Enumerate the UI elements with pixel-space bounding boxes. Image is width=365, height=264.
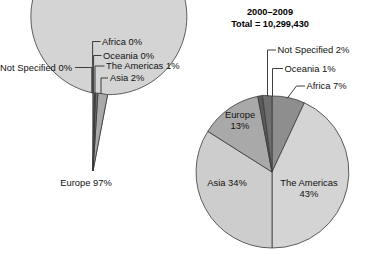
right-chart-total: Total = 10,299,430 — [231, 19, 309, 29]
chart-svg: 1890–1899 Total = 3,689,609 — [0, 0, 365, 264]
right-callout-africa: Africa 7% — [307, 80, 347, 91]
right-label-americas-pct: 43% — [300, 188, 319, 199]
right-label-europe-name: Europe — [225, 109, 255, 120]
right-callout-not-specified: Not Specified 2% — [278, 44, 350, 55]
left-callout-americas: The Americas 1% — [106, 60, 179, 71]
right-callout-oceania: Oceania 1% — [285, 63, 336, 74]
pie-chart-figure: 1890–1899 Total = 3,689,609 — [0, 0, 365, 264]
chart-left: 1890–1899 Total = 3,689,609 — [0, 0, 187, 188]
left-pie-slices — [31, 0, 187, 171]
left-callout-not-specified: Not Specified 0% — [0, 62, 72, 73]
leader-not-specified-r — [268, 50, 277, 97]
right-chart-title: 2000–2009 — [247, 7, 293, 17]
right-callout-leaders — [268, 50, 306, 99]
right-label-europe-pct: 13% — [231, 120, 250, 131]
left-slice-europe[interactable] — [31, 0, 187, 171]
left-label-europe: Europe 97% — [60, 177, 112, 188]
left-callout-africa: Africa 0% — [102, 36, 142, 47]
left-callout-oceania: Oceania 0% — [103, 50, 154, 61]
left-callout-asia: Asia 2% — [110, 72, 144, 83]
chart-right: 2000–2009 Total = 10,299,430 — [196, 7, 349, 248]
right-pie-slices — [196, 95, 349, 248]
leader-oceania-r — [273, 69, 284, 97]
right-label-asia: Asia 34% — [207, 177, 247, 188]
leader-africa-r — [287, 86, 305, 99]
right-label-americas-name: The Americas — [280, 177, 338, 188]
